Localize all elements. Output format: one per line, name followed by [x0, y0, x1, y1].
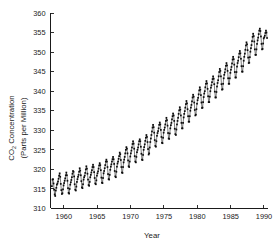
- data-point: [126, 146, 128, 148]
- data-point: [211, 81, 213, 83]
- chart-canvas: CO2 Concentration (Parts per Million) 31…: [0, 0, 275, 246]
- data-point: [96, 180, 98, 182]
- data-point: [76, 186, 78, 188]
- data-point: [212, 75, 214, 77]
- data-point: [158, 128, 160, 130]
- data-point: [250, 47, 252, 49]
- data-point: [173, 120, 175, 122]
- data-point: [169, 133, 171, 135]
- x-tick-label: 1980: [189, 212, 205, 221]
- data-point: [213, 78, 215, 80]
- data-point: [139, 138, 141, 140]
- data-point: [230, 69, 232, 71]
- data-point: [117, 163, 119, 165]
- data-point: [176, 129, 178, 131]
- data-point: [144, 140, 146, 142]
- data-point: [174, 128, 176, 130]
- x-tick-label: 1970: [122, 212, 138, 221]
- data-point: [256, 49, 258, 51]
- data-point: [84, 175, 86, 177]
- data-point: [133, 143, 135, 145]
- data-point: [202, 101, 204, 103]
- y-tick-label: 325: [33, 146, 45, 155]
- data-point: [67, 187, 69, 189]
- data-point: [97, 171, 99, 173]
- x-tick-label: 1975: [156, 212, 172, 221]
- data-point: [78, 174, 80, 176]
- data-point: [123, 159, 125, 161]
- data-point: [246, 43, 248, 45]
- data-point: [260, 36, 262, 38]
- data-point: [63, 182, 65, 184]
- data-point: [257, 40, 259, 42]
- data-point: [256, 43, 258, 45]
- data-point: [209, 90, 211, 92]
- data-point: [57, 183, 59, 185]
- data-point: [206, 80, 208, 82]
- data-point: [111, 161, 113, 163]
- data-point: [175, 134, 177, 136]
- data-point: [213, 83, 215, 85]
- y-tick-label: 335: [33, 106, 45, 115]
- data-point: [100, 169, 102, 171]
- data-point: [223, 77, 225, 79]
- data-point: [230, 72, 232, 74]
- data-point: [77, 176, 79, 178]
- data-point: [148, 153, 150, 155]
- data-point: [251, 40, 253, 42]
- data-point: [70, 181, 72, 183]
- series-markers: [51, 28, 268, 197]
- data-point: [192, 94, 194, 96]
- data-point: [257, 37, 259, 39]
- data-point: [216, 86, 218, 88]
- data-point: [74, 183, 76, 185]
- data-point: [72, 173, 74, 175]
- data-point: [144, 144, 146, 146]
- data-point: [102, 177, 104, 179]
- data-point: [260, 30, 262, 32]
- data-point: [88, 185, 90, 187]
- data-point: [156, 135, 158, 137]
- data-point: [195, 114, 197, 116]
- data-point: [106, 159, 108, 161]
- data-point: [102, 182, 104, 184]
- data-point: [229, 77, 231, 79]
- data-point: [199, 86, 201, 88]
- data-point: [119, 152, 121, 154]
- data-point: [133, 148, 135, 150]
- data-point: [266, 37, 268, 39]
- y-axis-title-group: CO2 Concentration (Parts per Million): [7, 95, 28, 160]
- data-point: [73, 171, 75, 173]
- data-point: [55, 190, 57, 192]
- data-point: [161, 136, 163, 138]
- data-point: [109, 169, 111, 171]
- data-point: [247, 57, 249, 59]
- data-point: [243, 56, 245, 58]
- data-point: [71, 179, 73, 181]
- data-point: [166, 117, 168, 119]
- data-point: [201, 102, 203, 104]
- data-point: [247, 49, 249, 51]
- data-point: [118, 155, 120, 157]
- data-point: [227, 77, 229, 79]
- data-point: [183, 117, 185, 119]
- data-point: [155, 146, 157, 148]
- data-point: [128, 166, 130, 168]
- data-point: [91, 169, 93, 171]
- data-point: [97, 172, 99, 174]
- data-point: [217, 79, 219, 81]
- data-point: [73, 176, 75, 178]
- data-point: [83, 176, 85, 178]
- data-point: [77, 178, 79, 180]
- data-point: [99, 164, 101, 166]
- data-point: [210, 87, 212, 89]
- data-point: [243, 60, 245, 62]
- data-point: [253, 35, 255, 37]
- data-point: [191, 101, 193, 103]
- data-point: [113, 163, 115, 165]
- data-point: [124, 153, 126, 155]
- data-point: [242, 65, 244, 67]
- data-point: [149, 141, 151, 143]
- data-point: [183, 113, 185, 115]
- data-point: [156, 140, 158, 142]
